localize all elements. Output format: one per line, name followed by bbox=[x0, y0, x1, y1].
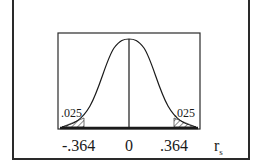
axis-subscript: s bbox=[219, 147, 223, 157]
left-tail-area-label: .025 bbox=[61, 107, 82, 119]
x-tick-right: .364 bbox=[160, 138, 188, 154]
x-tick-center: 0 bbox=[125, 138, 133, 154]
x-axis-label: rs bbox=[214, 138, 223, 156]
right-tail-area-label: .025 bbox=[174, 107, 195, 119]
x-tick-left: -.364 bbox=[62, 138, 95, 154]
